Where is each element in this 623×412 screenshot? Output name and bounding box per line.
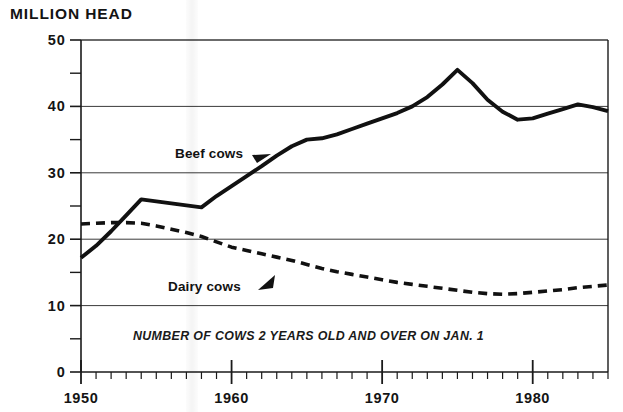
y-tick-label: 20	[22, 231, 66, 247]
plot-frame	[81, 40, 608, 372]
x-tick-label: 1960	[214, 390, 249, 406]
cattle-inventory-chart: MILLION HEAD 01020304050 195019601970198…	[0, 0, 623, 412]
x-tick-label: 1950	[64, 390, 99, 406]
chart-subtitle: NUMBER OF COWS 2 YEARS OLD AND OVER ON J…	[133, 329, 484, 343]
y-tick-label: 40	[22, 98, 66, 114]
y-tick-label: 10	[22, 298, 66, 314]
plot-area	[0, 0, 623, 412]
data-series	[81, 70, 608, 294]
y-tick-label: 0	[22, 364, 66, 380]
gridlines	[81, 40, 608, 306]
y-axis-ticks	[70, 40, 81, 372]
y-tick-label: 50	[22, 32, 66, 48]
x-tick-label: 1970	[365, 390, 400, 406]
x-tick-label: 1980	[515, 390, 550, 406]
y-tick-label: 30	[22, 165, 66, 181]
annotation-pointers	[252, 154, 275, 290]
series-label-beef: Beef cows	[175, 146, 243, 161]
series-label-dairy: Dairy cows	[168, 279, 241, 294]
